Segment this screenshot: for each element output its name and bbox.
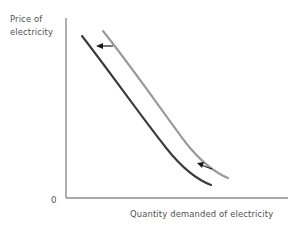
y-axis-label-line1: Price of xyxy=(10,14,43,24)
demand-shift-diagram: Price of electricity 0 Quantity demanded… xyxy=(0,0,290,231)
y-axis-label-line2: electricity xyxy=(10,27,53,37)
origin-label: 0 xyxy=(51,195,56,205)
x-axis-label: Quantity demanded of electricity xyxy=(130,209,273,219)
